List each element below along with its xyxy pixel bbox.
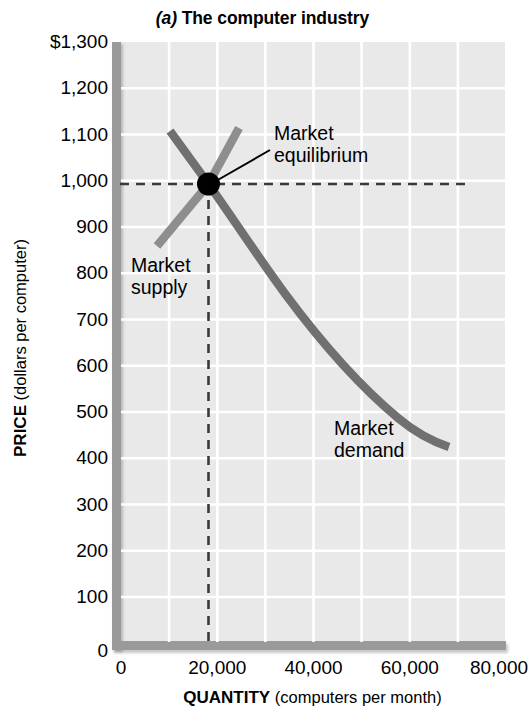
y-axis-title-rest: (dollars per computer) <box>11 239 29 405</box>
y-tick-100: 100 <box>4 586 108 608</box>
y-axis-title-strong: PRICE <box>11 405 30 457</box>
x-tick-60000: 60,000 <box>381 657 439 679</box>
x-tick-20000: 20,000 <box>188 657 246 679</box>
equilibrium-point-marker <box>197 173 220 196</box>
y-tick-1200: 1,200 <box>4 77 108 99</box>
annotation-market-demand-line2: demand <box>334 440 404 462</box>
annotation-market-equilibrium-line1: Market <box>274 123 368 145</box>
x-axis-title-rest: (computers per month) <box>270 688 441 706</box>
x-tick-0: 0 <box>116 657 127 679</box>
y-tick-0: 0 <box>4 640 108 662</box>
x-axis-title-strong: QUANTITY <box>183 688 270 707</box>
y-axis-title: PRICE (dollars per computer) <box>11 113 31 583</box>
annotation-market-supply: Market supply <box>131 255 191 299</box>
y-tick-1300: $1,300 <box>4 31 108 53</box>
annotation-market-equilibrium-line2: equilibrium <box>274 145 368 167</box>
annotation-market-supply-line2: supply <box>131 277 191 299</box>
x-tick-80000: 80,000 <box>470 657 528 679</box>
annotation-market-demand-line1: Market <box>334 418 404 440</box>
x-tick-40000: 40,000 <box>284 657 342 679</box>
x-axis-title: QUANTITY (computers per month) <box>120 688 505 708</box>
annotation-market-equilibrium: Market equilibrium <box>274 123 368 167</box>
annotation-market-supply-line1: Market <box>131 255 191 277</box>
annotation-market-demand: Market demand <box>334 418 404 462</box>
